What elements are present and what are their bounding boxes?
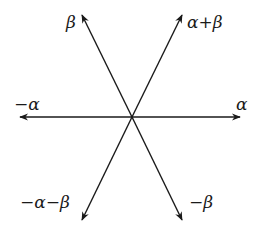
vector-alpha-label: α — [236, 94, 248, 114]
root-system-diagram: α−αβα+β−β−α−β — [0, 0, 255, 233]
vector-neg-beta-label: −β — [189, 192, 213, 212]
vector-beta-arrow — [82, 15, 132, 117]
vector-neg-alpha-minus-beta-arrow — [82, 117, 132, 220]
vector-beta-label: β — [65, 12, 76, 32]
vector-neg-alpha-minus-beta-label: −α−β — [20, 192, 70, 212]
vector-alpha-plus-beta-arrow — [132, 15, 182, 117]
vector-neg-beta-arrow — [132, 117, 182, 220]
vector-alpha-plus-beta-label: α+β — [187, 12, 223, 32]
vector-neg-alpha-label: −α — [14, 94, 40, 114]
